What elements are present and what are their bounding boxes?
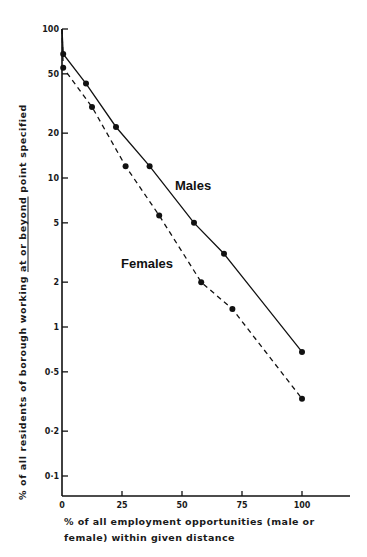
y-tick-label: 10 — [48, 174, 60, 183]
data-series — [60, 29, 305, 402]
females-line — [62, 29, 302, 399]
y-tick-label: 2 — [53, 278, 59, 287]
y-ticks: 1005020105210·50·20·1 — [42, 25, 68, 481]
females-series-label: Females — [121, 256, 173, 271]
males-data-point — [191, 220, 197, 226]
males-data-point — [83, 81, 89, 87]
males-data-point — [147, 163, 153, 169]
x-axis-label-line-1: % of all employment opportunities (male … — [64, 514, 315, 530]
males-series-label: Males — [175, 178, 211, 193]
chart: % of all residents of borough working at… — [0, 0, 367, 557]
males-data-point — [113, 124, 119, 130]
females-data-point — [89, 104, 95, 110]
y-axis-label: % of all residents of borough working at… — [17, 104, 28, 500]
y-tick-label: 5 — [53, 219, 59, 228]
females-data-point — [156, 213, 162, 219]
x-axis-label: % of all employment opportunities (male … — [64, 514, 315, 546]
females-data-point — [299, 396, 305, 402]
y-tick-label: 20 — [48, 129, 60, 138]
y-tick-label: 50 — [48, 70, 60, 79]
females-data-point — [229, 306, 235, 312]
y-tick-label: 0·1 — [45, 472, 60, 481]
x-ticks: 0255075100 — [59, 491, 311, 510]
females-data-point — [123, 163, 129, 169]
females-data-point — [198, 279, 204, 285]
axes — [62, 29, 350, 496]
males-data-point — [221, 251, 227, 257]
males-data-point — [299, 349, 305, 355]
series-labels: MalesFemales — [121, 178, 211, 271]
x-tick-label: 100 — [294, 501, 311, 510]
y-axis-title: % of all residents of borough working at… — [17, 104, 28, 500]
x-tick-label: 75 — [236, 501, 248, 510]
y-tick-label: 0·2 — [45, 427, 59, 436]
y-tick-label: 1 — [53, 323, 59, 332]
x-tick-label: 0 — [59, 501, 65, 510]
x-tick-label: 50 — [176, 501, 188, 510]
x-tick-label: 25 — [116, 501, 128, 510]
females-data-point — [60, 65, 66, 71]
y-tick-label: 100 — [42, 25, 59, 34]
x-axis-label-line-2: female) within given distance — [64, 530, 315, 546]
y-tick-label: 0·5 — [45, 368, 60, 377]
